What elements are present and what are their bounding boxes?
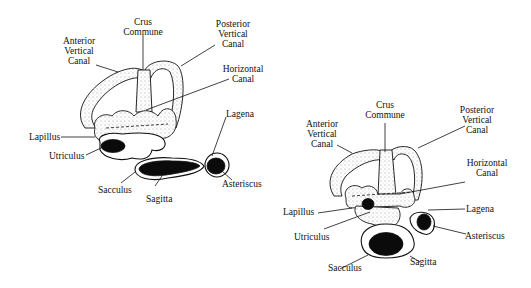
left-sacculus-label: Sacculus <box>98 185 132 195</box>
right-lapillus-label: Lapillus <box>283 207 314 217</box>
left-asteriscus-label: Asteriscus <box>222 179 262 189</box>
right-asteriscus-label: Asteriscus <box>465 231 505 241</box>
left-posterior-vertical-canal-label: PosteriorVerticalCanal <box>216 19 251 49</box>
right-sagitta-otolith <box>369 233 403 256</box>
right-utriculus-shape <box>355 206 400 227</box>
inner-ear-diagram: CrusCommune AnteriorVerticalCanal Poster… <box>0 0 531 288</box>
left-horizontal-canal-label: HorizontalCanal <box>223 64 264 84</box>
right-sagitta-label: Sagitta <box>410 257 437 267</box>
right-inner-ear-figure: CrusCommune AnteriorVerticalCanal Poster… <box>283 100 508 273</box>
right-posterior-vertical-canal-label: PosteriorVerticalCanal <box>460 105 495 135</box>
right-asteriscus-otolith <box>417 214 431 230</box>
right-lapillus-otolith <box>362 199 374 210</box>
right-sacculus-label: Sacculus <box>328 263 362 273</box>
left-utriculus-label: Utriculus <box>49 151 85 161</box>
left-lapillus-otolith <box>101 140 125 153</box>
right-utriculus-label: Utriculus <box>294 232 330 242</box>
right-anterior-vertical-canal-label: AnteriorVerticalCanal <box>306 119 339 149</box>
left-lagena-label: Lagena <box>226 109 255 119</box>
right-lagena-label: Lagena <box>466 204 495 214</box>
left-crus-commune-label: CrusCommune <box>123 17 163 37</box>
left-sagitta-label: Sagitta <box>146 194 173 204</box>
right-horizontal-canal-label: HorizontalCanal <box>467 158 508 178</box>
left-crus-commune-shape <box>136 70 152 112</box>
left-lapillus-label: Lapillus <box>29 132 60 142</box>
left-inner-ear-figure: CrusCommune AnteriorVerticalCanal Poster… <box>29 17 264 204</box>
right-crus-commune-label: CrusCommune <box>365 100 405 120</box>
left-anterior-vertical-canal-label: AnteriorVerticalCanal <box>63 36 96 66</box>
